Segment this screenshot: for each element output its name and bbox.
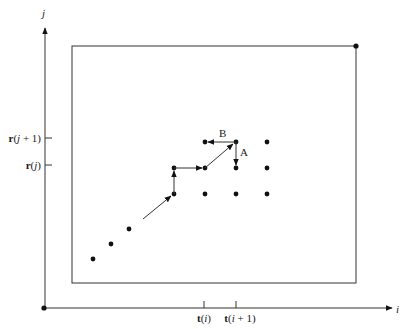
origin-point (41, 305, 46, 310)
path-arrows (143, 142, 236, 219)
y-tick-label-r-j-plus-1: r(j + 1) (9, 132, 42, 145)
corner-points (41, 43, 358, 310)
diagonal-points (91, 227, 132, 262)
grid-point (203, 140, 208, 145)
axes: j i (40, 7, 399, 315)
x-tick-label-t-i: t(i) (197, 312, 211, 325)
y-axis-label: j (40, 7, 45, 19)
path-point (127, 227, 132, 232)
grid-point (265, 166, 270, 171)
label-b: B (219, 127, 226, 139)
path-point (109, 242, 114, 247)
arrow-diagonal-1 (143, 196, 171, 219)
x-tick-label-t-i-plus-1: t(i + 1) (224, 312, 256, 325)
path-point (91, 257, 96, 262)
label-a: A (240, 146, 248, 158)
grid-point (234, 192, 239, 197)
x-axis-label: i (396, 303, 399, 315)
x-ticks: t(i) t(i + 1) (197, 301, 256, 325)
warping-path-diagram: j i r(j + 1) r(j) t(i) t(i + 1) (0, 0, 411, 329)
grid-point (265, 192, 270, 197)
grid-point (203, 192, 208, 197)
arrow-diagonal-2 (205, 144, 233, 168)
grid-point (234, 166, 239, 171)
search-region-rectangle (72, 46, 356, 283)
end-point (353, 43, 358, 48)
y-tick-label-r-j: r(j) (26, 159, 42, 172)
grid-point (265, 140, 270, 145)
